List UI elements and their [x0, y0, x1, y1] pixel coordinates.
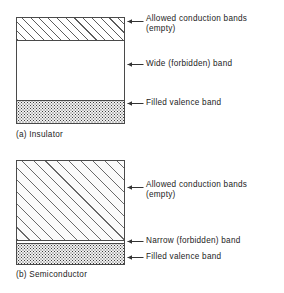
semiconductor-band-diagram: [16, 160, 125, 265]
insulator-conduction-band: [16, 17, 125, 41]
figure-canvas: Allowed conduction bands (empty) Wide (f…: [0, 0, 284, 293]
leader-arrow-insulator-valence: [127, 100, 144, 107]
leader-arrow-insulator-forbidden: [127, 61, 144, 68]
label-semiconductor-forbidden-band: Narrow (forbidden) band: [146, 236, 282, 246]
label-insulator-forbidden-band: Wide (forbidden) band: [146, 59, 282, 69]
semiconductor-valence-band: [16, 243, 125, 265]
leader-arrow-semiconductor-forbidden: [127, 238, 144, 245]
leader-arrow-semiconductor-valence: [127, 254, 144, 261]
label-semiconductor-conduction-band: Allowed conduction bands (empty): [146, 180, 282, 201]
insulator-forbidden-gap: [16, 41, 125, 100]
insulator-valence-band: [16, 100, 125, 124]
semiconductor-conduction-band: [16, 160, 125, 241]
label-insulator-conduction-band: Allowed conduction bands (empty): [146, 14, 282, 35]
caption-insulator: (a) Insulator: [16, 130, 63, 140]
label-semiconductor-valence-band: Filled valence band: [146, 252, 282, 262]
leader-arrow-insulator-conduction: [127, 18, 144, 25]
insulator-band-diagram: [16, 17, 125, 124]
caption-semiconductor: (b) Semiconductor: [16, 270, 87, 280]
label-insulator-valence-band: Filled valence band: [146, 98, 282, 108]
leader-arrow-semiconductor-conduction: [127, 184, 144, 191]
